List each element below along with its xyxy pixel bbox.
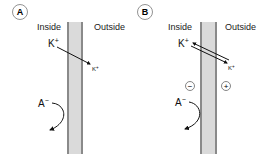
svg-text:+: + (224, 82, 229, 91)
anion-b: A− (175, 96, 186, 108)
svg-text:−: − (188, 82, 193, 91)
k-ion-inside-b: K+ (178, 37, 189, 49)
panel-label-a: A (17, 7, 24, 17)
inside-label-b: Inside (168, 22, 192, 32)
panel-label-b-badge: B (138, 5, 153, 20)
anion-reflect-arrow-a (50, 103, 64, 130)
membrane-b (200, 22, 217, 154)
positive-charge-outside: + (222, 82, 231, 91)
panel-a: A Inside Outside K+ K+ A− (13, 5, 126, 155)
outside-label-b: Outside (225, 22, 256, 32)
panel-b: B Inside Outside K+ K+ − + A− (138, 5, 257, 155)
panel-label-a-badge: A (13, 5, 28, 20)
membrane-a (67, 22, 83, 154)
anion-a: A− (38, 97, 49, 109)
k-ion-outside-a: K+ (92, 65, 99, 73)
inside-label-a: Inside (37, 22, 61, 32)
membrane-diagram: A Inside Outside K+ K+ A− B (0, 0, 259, 154)
panel-label-b: B (142, 7, 149, 17)
anion-reflect-arrow-b (185, 102, 200, 129)
k-ion-outside-b: K+ (228, 64, 235, 72)
outside-label-a: Outside (94, 22, 125, 32)
negative-charge-inside: − (186, 82, 195, 91)
